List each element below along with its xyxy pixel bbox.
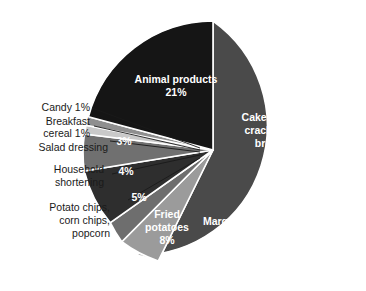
label-fried-potatoes-pct: 8% (159, 234, 175, 246)
callout-potato-chips-line3: popcorn (72, 227, 110, 239)
callout-salad-dressing: Salad dressing (39, 141, 109, 153)
label-fried-potatoes-line2: potatoes (145, 221, 189, 233)
label-animal-products-pct: 21% (165, 86, 187, 98)
callout-candy: Candy 1% (42, 101, 90, 113)
label-cakes-cookies-line2: crackers, pies, (245, 124, 318, 136)
label-potato-chips-pct: 5% (131, 191, 147, 203)
callout-household-shortening-line2: shortening (55, 176, 104, 188)
callout-breakfast-cereal: Breakfast (46, 115, 90, 127)
label-salad-dressing-pct: 3% (116, 135, 132, 147)
label-cakes-cookies: Cakes, cookies, (242, 111, 321, 123)
label-margarine: Margarine (203, 215, 253, 227)
callout-household-shortening: Household (54, 163, 104, 175)
label-cakes-cookies-line3: bread, etc. (255, 137, 308, 149)
label-household-shortening-pct: 4% (118, 165, 134, 177)
callout-breakfast-cereal-line2: cereal 1% (43, 127, 90, 139)
callout-potato-chips-line2: corn chips, (59, 214, 110, 226)
label-animal-products: Animal products (135, 73, 218, 85)
pie-chart-page: Cakes, cookies, crackers, pies, bread, e… (0, 0, 366, 291)
label-cakes-cookies-pct: 40% (270, 150, 292, 162)
label-margarine-pct: 17% (217, 228, 239, 240)
callout-potato-chips: Potato chips, (49, 201, 110, 213)
label-fried-potatoes: Fried (154, 208, 180, 220)
food-sources-pie-chart: Cakes, cookies, crackers, pies, bread, e… (0, 0, 366, 291)
